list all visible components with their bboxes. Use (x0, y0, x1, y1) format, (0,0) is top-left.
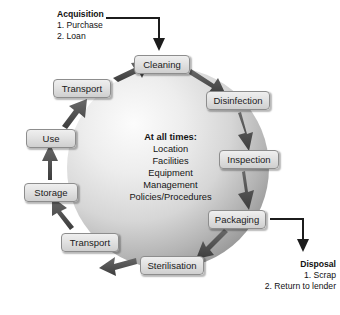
cycle-node-transport-bottom[interactable]: Transport (61, 233, 119, 252)
arrow-storage-to-use (42, 144, 58, 180)
cycle-node-label: Cleaning (143, 60, 181, 70)
cycle-node-label: Transport (62, 84, 102, 94)
disposal-heading: Disposal (265, 259, 336, 270)
acquisition-item-loan: 2. Loan (57, 31, 104, 42)
center-heading: At all times: (88, 131, 253, 143)
disposal-arrowhead (297, 239, 309, 252)
acquisition-connector (106, 18, 159, 38)
cycle-node-transport-top[interactable]: Transport (53, 79, 111, 98)
cycle-node-label: Inspection (227, 155, 270, 165)
cycle-node-packaging[interactable]: Packaging (208, 210, 266, 229)
disposal-item-scrap: 1. Scrap (265, 270, 336, 281)
cycle-node-label: Storage (34, 188, 67, 198)
acquisition-heading: Acquisition (57, 9, 104, 20)
disposal-connector (270, 219, 303, 239)
cycle-node-use[interactable]: Use (26, 129, 76, 148)
center-item-equipment: Equipment (88, 167, 253, 179)
cycle-node-disinfection[interactable]: Disinfection (206, 91, 270, 110)
acquisition-arrowhead (153, 38, 165, 51)
cycle-node-label: Disinfection (213, 96, 262, 106)
diagram-canvas: Cleaning Disinfection Inspection Packagi… (0, 0, 340, 315)
cycle-node-label: Packaging (215, 215, 259, 225)
disposal-item-return: 2. Return to lender (265, 281, 336, 292)
center-item-policies: Policies/Procedures (88, 191, 253, 203)
disposal-label: Disposal 1. Scrap 2. Return to lender (265, 259, 336, 292)
cycle-node-inspection[interactable]: Inspection (219, 150, 279, 169)
cycle-node-label: Use (43, 134, 60, 144)
center-item-management: Management (88, 179, 253, 191)
cycle-node-label: Transport (70, 238, 110, 248)
cycle-node-sterilisation[interactable]: Sterilisation (140, 256, 204, 275)
acquisition-label: Acquisition 1. Purchase 2. Loan (57, 9, 104, 42)
cycle-node-storage[interactable]: Storage (24, 183, 78, 202)
cycle-node-label: Sterilisation (147, 261, 196, 271)
cycle-node-cleaning[interactable]: Cleaning (134, 55, 190, 74)
acquisition-item-purchase: 1. Purchase (57, 20, 104, 31)
arrow-sterilisation-to-transport (99, 257, 137, 276)
